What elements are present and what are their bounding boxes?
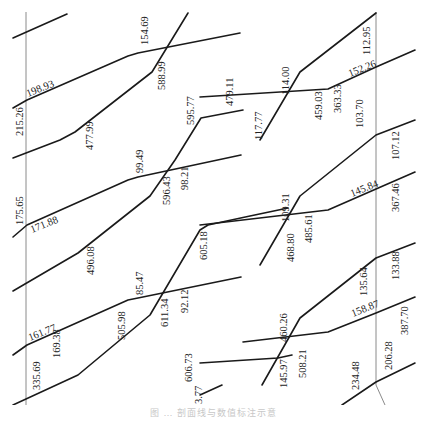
- value-label: 92.12: [179, 289, 190, 313]
- value-label: 198.93: [25, 78, 56, 99]
- value-label: 3.77: [193, 386, 204, 404]
- value-label: 154.69: [139, 16, 150, 45]
- value-label: 109.31: [280, 193, 291, 222]
- value-label: 496.08: [85, 246, 96, 275]
- value-label: 112.95: [361, 27, 372, 56]
- value-label: 103.70: [354, 99, 365, 128]
- value-label: 107.12: [390, 131, 401, 160]
- value-label: 459.03: [313, 91, 324, 120]
- value-label: 135.64: [358, 266, 369, 296]
- value-label: 152.26: [347, 58, 378, 79]
- value-label: 117.77: [253, 112, 264, 141]
- value-label: 606.73: [183, 353, 194, 382]
- value-label: 387.70: [399, 306, 410, 335]
- value-label: 477.99: [84, 121, 95, 150]
- value-label: 133.88: [390, 251, 401, 280]
- survey-line-diagram: 198.93215.26154.69588.99477.99595.77479.…: [0, 0, 427, 405]
- value-label: 99.49: [134, 149, 145, 173]
- value-label: 335.69: [31, 361, 42, 390]
- value-label: 460.26: [278, 313, 289, 342]
- figure-caption: 图 … 剖面线与数值标注示意: [0, 406, 427, 419]
- profile-segment: [243, 297, 415, 342]
- value-label: 505.98: [116, 311, 127, 340]
- value-label: 145.97: [278, 359, 289, 388]
- profile-segment: [13, 208, 288, 405]
- profile-segment: [13, 14, 67, 38]
- value-label: 595.77: [185, 96, 196, 125]
- value-label: 234.48: [350, 361, 361, 390]
- value-label: 588.99: [156, 61, 167, 90]
- value-label: 175.65: [14, 196, 25, 225]
- value-label: 605.18: [198, 231, 209, 260]
- value-labels: 198.93215.26154.69588.99477.99595.77479.…: [14, 16, 410, 404]
- value-label: 611.34: [159, 298, 170, 327]
- value-label: 98.21: [179, 166, 190, 190]
- value-label: 206.28: [383, 341, 394, 370]
- value-label: 479.11: [224, 78, 235, 107]
- value-label: 468.80: [285, 233, 296, 262]
- value-label: 85.47: [134, 271, 145, 295]
- value-label: 363.33: [332, 84, 343, 113]
- profile-segment: [13, 110, 243, 291]
- value-label: 596.43: [161, 176, 172, 205]
- value-label: 215.26: [14, 107, 25, 136]
- value-label: 508.21: [297, 349, 308, 378]
- value-label: 145.84: [349, 178, 381, 199]
- value-label: 485.61: [303, 214, 314, 243]
- profile-segment: [13, 277, 241, 355]
- value-label: 114.00: [280, 67, 291, 96]
- value-label: 169.38: [51, 329, 62, 358]
- value-label: 367.46: [390, 183, 401, 212]
